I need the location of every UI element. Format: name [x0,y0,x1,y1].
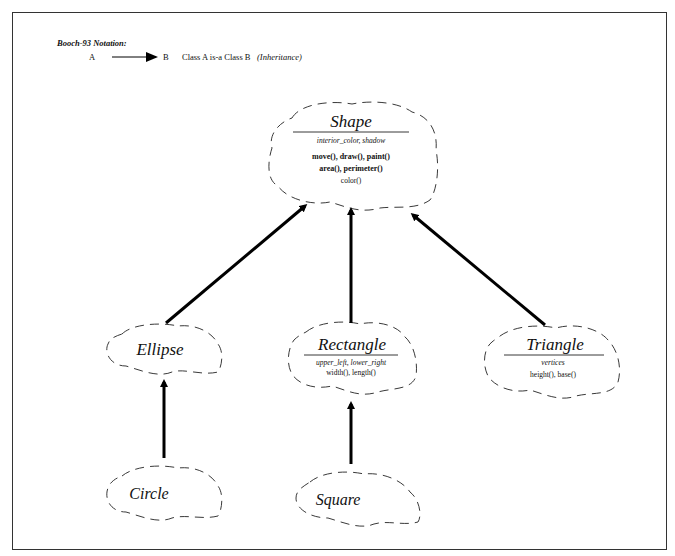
class-square: Square [296,472,420,526]
class-name-rectangle: Rectangle [317,335,386,354]
arrow-triangle-to-shape-icon [413,215,545,325]
class-ellipse: Ellipse [107,324,222,374]
class-shape: Shape interior_color, shadow move(), dra… [269,102,438,210]
shape-operation-3: color() [341,176,362,185]
shape-attributes: interior_color, shadow [317,136,385,145]
triangle-operation-1: height(), base() [530,370,576,379]
class-name-square: Square [316,491,361,509]
class-name-triangle: Triangle [526,335,584,354]
class-circle: Circle [107,466,222,520]
rectangle-operation-1: width(), length() [326,368,376,377]
class-name-shape: Shape [330,112,372,131]
shape-operation-2: area(), perimeter() [319,164,383,173]
arrow-ellipse-to-shape-icon [166,206,305,323]
class-name-ellipse: Ellipse [135,340,184,359]
class-name-circle: Circle [129,485,168,502]
rectangle-attributes: upper_left, lower_right [316,358,387,367]
class-triangle: Triangle vertices height(), base() [485,326,620,398]
class-diagram: Shape interior_color, shadow move(), dra… [0,0,675,556]
shape-operation-1: move(), draw(), paint() [312,152,390,161]
triangle-attributes: vertices [541,358,564,367]
class-rectangle: Rectangle upper_left, lower_right width(… [288,322,416,394]
